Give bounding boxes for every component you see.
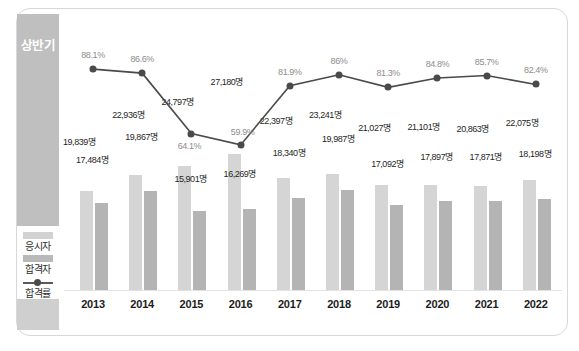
pass-rate-marker[interactable] [532,81,539,88]
bar-value-applicants: 22,075명 [506,119,538,128]
plot-area: 19,839명17,484명201322,936명19,867명201424,7… [64,10,564,330]
year-group: 27,180명16,269명2016 [222,10,268,330]
bar-applicants[interactable] [178,166,191,290]
bar-applicants[interactable] [375,185,388,290]
bar-value-passers: 19,867명 [125,133,157,142]
x-axis-label: 2019 [365,298,411,310]
pass-rate-marker[interactable] [139,70,146,77]
pass-rate-label: 64.1% [178,142,202,151]
bar-value-applicants: 20,863명 [457,125,489,134]
pass-rate-marker[interactable] [237,141,244,148]
legend-item-pass-rate: 합격률 [12,278,64,300]
pass-rate-label: 81.9% [278,68,302,77]
bar-value-passers: 17,484명 [76,156,108,165]
bar-value-passers: 19,987명 [322,135,354,144]
bar-value-applicants: 19,839명 [63,138,95,147]
bar-passers[interactable] [292,198,305,290]
chart-screenshot: 상반기 응시자 합격자 합격률 19,839명17,484명201322,936… [0,0,579,351]
pass-rate-marker[interactable] [286,82,293,89]
bar-passers[interactable] [243,209,256,290]
x-axis-label: 2014 [119,298,165,310]
bar-passers[interactable] [489,201,502,290]
season-banner-label: 상반기 [17,40,59,53]
pass-rate-label: 86.6% [130,55,154,64]
pass-rate-marker[interactable] [336,71,343,78]
pass-rate-marker[interactable] [188,130,195,137]
bar-value-passers: 17,871명 [470,153,502,162]
legend-label-applicants: 응시자 [12,240,64,253]
bar-value-passers: 17,897명 [420,153,452,162]
bar-applicants[interactable] [424,185,437,291]
bar-applicants[interactable] [326,174,339,290]
bar-value-passers: 16,269명 [224,170,256,179]
bar-passers[interactable] [144,191,157,290]
pass-rate-marker[interactable] [483,72,490,79]
bar-value-applicants: 21,027명 [358,124,390,133]
pass-rate-label: 85.7% [475,58,499,67]
legend-item-applicants: 응시자 [12,232,64,253]
pass-rate-label: 82.4% [524,66,548,75]
x-axis-label: 2016 [218,298,264,310]
bar-value-passers: 18,340명 [273,149,305,158]
season-banner: 상반기 [17,14,59,226]
bar-value-applicants: 22,397명 [260,117,292,126]
legend-swatch-passers-icon [23,255,53,262]
year-group: 22,397명18,340명2017 [271,10,317,330]
legend-swatch-applicants-icon [23,232,53,239]
bar-applicants[interactable] [277,178,290,290]
bar-value-applicants: 21,101명 [407,123,439,132]
bar-applicants[interactable] [80,191,93,290]
x-axis-label: 2021 [464,298,510,310]
x-axis-label: 2020 [414,298,460,310]
bar-passers[interactable] [193,211,206,291]
bar-value-applicants: 23,241명 [309,111,341,120]
bar-applicants[interactable] [474,186,487,290]
year-group: 21,027명17,092명2019 [369,10,415,330]
pass-rate-label: 86% [331,57,348,66]
pass-rate-marker[interactable] [434,74,441,81]
pass-rate-label: 81.3% [376,69,400,78]
year-group: 22,075명18,198명2022 [517,10,563,330]
bottom-accent-block [17,299,59,330]
bar-value-passers: 18,198명 [519,150,551,159]
legend-line-marker-icon [23,278,53,287]
bar-value-passers: 17,092명 [371,160,403,169]
bar-value-applicants: 24,797명 [161,98,193,107]
bar-applicants[interactable] [129,175,142,290]
bar-value-applicants: 27,180명 [211,78,243,87]
bar-value-applicants: 22,936명 [112,111,144,120]
pass-rate-marker[interactable] [90,66,97,73]
x-axis-label: 2013 [70,298,116,310]
bar-passers[interactable] [538,199,551,290]
bar-value-passers: 15,901명 [174,175,206,184]
bar-passers[interactable] [95,203,108,290]
x-axis-label: 2015 [168,298,214,310]
bar-passers[interactable] [341,190,354,290]
x-axis-label: 2018 [316,298,362,310]
x-axis-label: 2022 [513,298,559,310]
pass-rate-label: 88.1% [81,51,105,60]
legend-item-passers: 합격자 [12,255,64,276]
pass-rate-label: 84.8% [426,60,450,69]
pass-rate-marker[interactable] [385,84,392,91]
bar-applicants[interactable] [523,180,536,290]
bar-passers[interactable] [390,205,403,290]
year-group: 24,797명15,901명2015 [172,10,218,330]
pass-rate-label: 59.9% [231,128,255,137]
x-axis-label: 2017 [267,298,313,310]
bar-passers[interactable] [439,201,452,290]
chart-legend: 응시자 합격자 합격률 [12,232,64,302]
legend-label-passers: 합격자 [12,263,64,276]
